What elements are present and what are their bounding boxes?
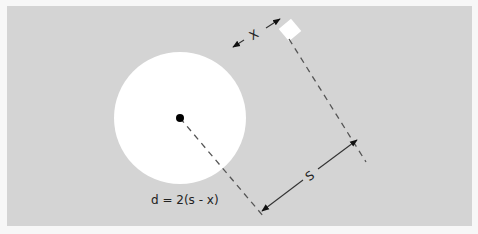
center-dot bbox=[176, 114, 184, 122]
s-label: S bbox=[303, 168, 318, 184]
x-arrow-lower bbox=[233, 40, 244, 47]
x-arrow-upper bbox=[266, 19, 280, 28]
s-arrow-upper bbox=[318, 140, 357, 169]
diagram-canvas: X S d = 2(s - x) bbox=[0, 0, 478, 234]
square-dashed-line bbox=[289, 39, 366, 162]
formula-label: d = 2(s - x) bbox=[151, 193, 219, 207]
square-marker bbox=[279, 19, 302, 42]
x-label: X bbox=[247, 27, 261, 43]
s-arrow-lower bbox=[262, 180, 303, 211]
